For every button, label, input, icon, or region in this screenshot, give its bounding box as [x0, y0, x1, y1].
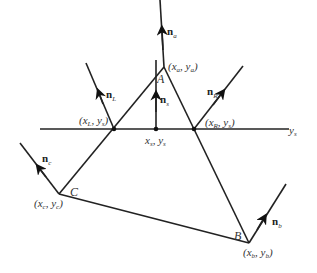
label-B: B	[234, 229, 242, 243]
point-L	[112, 127, 117, 132]
label-coord-b: (xb, yb)	[243, 246, 273, 260]
nL-arrow-icon	[99, 93, 103, 104]
label-coord-a: (xa, ya)	[168, 60, 198, 74]
nb-arrow-icon	[257, 218, 264, 230]
label-A: A	[156, 72, 165, 86]
label-coord-L: (xL, ys)	[79, 114, 109, 128]
label-ys-line: ys	[288, 124, 297, 138]
label-nc: nc	[42, 152, 52, 167]
label-coord-s: xs, ys	[144, 134, 166, 148]
label-ns: ns	[160, 93, 169, 108]
triangle-normals-diagram: na (xa, ya) A ns nL nR (xL, ys) (xR, ys)…	[0, 0, 317, 273]
label-nb: nb	[272, 215, 282, 230]
na-arrow-icon	[162, 30, 163, 50]
label-coord-c: (xc, yc)	[34, 197, 63, 211]
label-nL: nL	[106, 88, 116, 103]
point-s	[154, 127, 159, 132]
label-C: C	[70, 185, 79, 199]
point-R	[192, 127, 197, 132]
nc-arrow-icon	[39, 168, 46, 177]
label-nR: nR	[207, 85, 218, 100]
label-coord-R: (xR, ys)	[205, 116, 235, 130]
nb-line	[249, 184, 286, 243]
edge-cb	[59, 194, 249, 243]
edge-ac	[59, 67, 164, 194]
label-na: na	[167, 25, 177, 40]
